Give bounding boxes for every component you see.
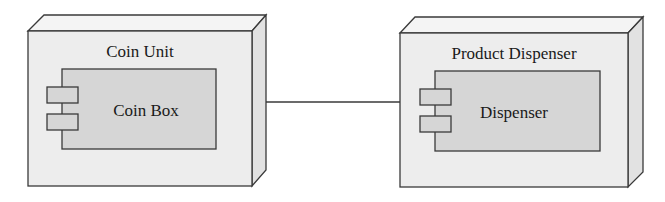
node-top-face xyxy=(400,17,643,33)
node-coin-unit: Coin Unit Coin Box xyxy=(28,15,266,186)
component-label: Dispenser xyxy=(480,103,548,122)
node-product-dispenser: Product Dispenser Dispenser xyxy=(400,17,643,187)
component-tab-icon xyxy=(47,87,78,103)
node-label: Product Dispenser xyxy=(451,44,576,63)
component-tab-icon xyxy=(420,89,451,105)
node-label: Coin Unit xyxy=(106,42,174,61)
component-label: Coin Box xyxy=(113,101,179,120)
node-side-face xyxy=(628,17,643,187)
component-dispenser: Dispenser xyxy=(420,71,600,151)
component-coin-box: Coin Box xyxy=(47,69,216,149)
component-tab-icon xyxy=(420,116,451,132)
deployment-diagram: Coin Unit Coin Box Product Dispenser Dis… xyxy=(0,0,665,202)
component-tab-icon xyxy=(47,114,78,130)
node-side-face xyxy=(252,15,266,186)
node-top-face xyxy=(28,15,266,31)
